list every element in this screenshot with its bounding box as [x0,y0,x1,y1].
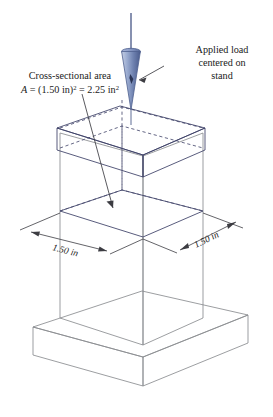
dimension-right-ext-2 [143,239,177,253]
dimension-right: 1.50 in [143,213,243,253]
base-slab [33,291,248,386]
cross-section-leader [82,94,114,208]
cross-section-formula-sup2: 2 [116,84,119,91]
cross-section-face [60,190,203,237]
cross-section-line-1: Cross-sectional area [29,70,112,81]
cross-section-formula-eq1: = (1.50 in) [27,84,73,96]
dimension-left-ext-2 [110,239,143,254]
column-body [60,133,203,345]
base-front-left-face [33,327,143,386]
applied-load-line-3: stand [211,70,233,81]
cross-section-plane [60,190,203,237]
dimension-left-ext-1 [20,213,60,230]
upper-plate-hidden-bottom-edges [60,126,203,148]
cross-section-hidden-edges [60,190,203,211]
dimension-left-arrow-start-icon [31,232,40,237]
dimension-left-arrow-end-icon [98,247,107,252]
cross-section-leader-arrow-icon [107,201,114,209]
applied-load-annotation: Applied load centered on stand [196,44,249,81]
dimension-right-label: 1.50 in [192,229,220,250]
cross-section-leader-line [82,94,113,208]
dimension-left-label: 1.50 in [51,242,79,258]
base-top-face [33,291,248,357]
dimension-right-arrow-end-icon [227,222,236,229]
dimension-left: 1.50 in [20,213,143,259]
dimension-right-arrow-start-icon [180,243,189,250]
applied-load-leader-line [139,66,164,80]
cross-section-annotation: Cross-sectional area A = (1.50 in)2 = 2.… [20,70,119,96]
applied-load-line-1: Applied load [196,44,249,55]
technical-figure: 1.50 in 1.50 in Applied load centered on… [0,0,273,417]
base-front-right-face [143,315,248,386]
applied-load-line-2: centered on [198,57,245,68]
figure-canvas: 1.50 in 1.50 in Applied load centered on… [0,0,273,417]
cross-section-formula-eq2: = 2.25 in [77,84,116,95]
dimension-right-ext-1 [203,213,243,228]
cross-section-formula: A = (1.50 in)2 = 2.25 in2 [20,84,119,96]
cone-arrow-down-icon [122,13,141,125]
applied-load-leader [139,66,164,83]
